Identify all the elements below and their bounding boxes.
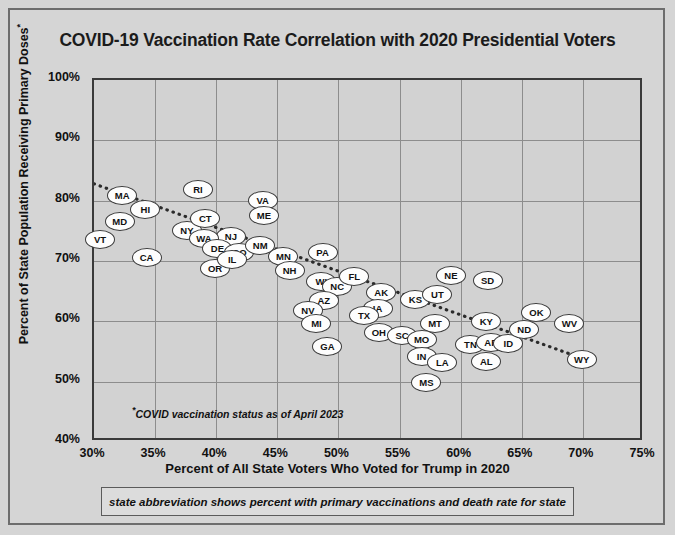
data-point-al[interactable]: AL xyxy=(471,352,501,371)
data-point-fl[interactable]: FL xyxy=(339,267,369,286)
gridline-horizontal xyxy=(94,382,640,383)
x-tick-label: 65% xyxy=(490,446,550,460)
footnote-text: COVID vaccination status as of April 202… xyxy=(136,408,344,420)
x-tick-label: 75% xyxy=(612,446,672,460)
x-tick-label: 50% xyxy=(306,446,366,460)
y-tick-label: 80% xyxy=(30,191,80,205)
gridline-vertical xyxy=(522,80,523,438)
data-point-ut[interactable]: UT xyxy=(422,285,452,304)
data-point-ms[interactable]: MS xyxy=(411,373,441,392)
data-point-ky[interactable]: KY xyxy=(471,312,501,331)
x-tick-label: 35% xyxy=(123,446,183,460)
caption-text: state abbreviation shows percent with pr… xyxy=(109,496,566,508)
gridline-vertical xyxy=(338,80,339,438)
y-tick-label: 100% xyxy=(30,70,80,84)
data-point-il[interactable]: IL xyxy=(217,250,247,269)
chart-title: COVID-19 Vaccination Rate Correlation wi… xyxy=(0,30,675,51)
gridline-vertical xyxy=(461,80,462,438)
data-point-pa[interactable]: PA xyxy=(308,243,338,262)
x-tick-label: 30% xyxy=(62,446,122,460)
gridline-vertical xyxy=(400,80,401,438)
data-point-ri[interactable]: RI xyxy=(183,180,213,199)
x-tick-label: 55% xyxy=(368,446,428,460)
data-point-ne[interactable]: NE xyxy=(436,266,466,285)
data-point-mi[interactable]: MI xyxy=(301,314,331,333)
data-point-nh[interactable]: NH xyxy=(275,261,305,280)
trendline xyxy=(94,80,640,438)
x-tick-label: 60% xyxy=(429,446,489,460)
data-point-wy[interactable]: WY xyxy=(567,350,597,369)
data-point-mo[interactable]: MO xyxy=(407,330,437,349)
y-axis-title: Percent of State Population Receiving Pr… xyxy=(15,19,31,349)
data-point-sd[interactable]: SD xyxy=(473,271,503,290)
plot-area: VTMAMDHICANYCTRINJVAMEWADEORCONMILMNNHPA… xyxy=(92,78,642,440)
y-tick-label: 60% xyxy=(30,311,80,325)
data-point-ma[interactable]: MA xyxy=(107,186,137,205)
y-tick-label: 70% xyxy=(30,251,80,265)
chart-page: COVID-19 Vaccination Rate Correlation wi… xyxy=(0,0,675,535)
gridline-horizontal xyxy=(94,261,640,262)
gridline-horizontal xyxy=(94,140,640,141)
x-tick-label: 70% xyxy=(551,446,611,460)
data-point-la[interactable]: LA xyxy=(427,353,457,372)
y-tick-label: 50% xyxy=(30,372,80,386)
caption-box: state abbreviation shows percent with pr… xyxy=(101,487,574,516)
data-point-nd[interactable]: ND xyxy=(509,320,539,339)
data-point-ca[interactable]: CA xyxy=(132,248,162,267)
data-point-me[interactable]: ME xyxy=(249,206,279,225)
y-tick-label: 90% xyxy=(30,130,80,144)
gridline-vertical xyxy=(583,80,584,438)
gridline-horizontal xyxy=(94,201,640,202)
x-tick-label: 40% xyxy=(184,446,244,460)
footnote: *COVID vaccination status as of April 20… xyxy=(132,405,343,420)
data-point-wv[interactable]: WV xyxy=(554,314,584,333)
data-point-vt[interactable]: VT xyxy=(85,230,115,249)
y-tick-label: 40% xyxy=(30,432,80,446)
data-point-md[interactable]: MD xyxy=(105,212,135,231)
x-axis-title: Percent of All State Voters Who Voted fo… xyxy=(0,461,675,476)
x-tick-label: 45% xyxy=(245,446,305,460)
